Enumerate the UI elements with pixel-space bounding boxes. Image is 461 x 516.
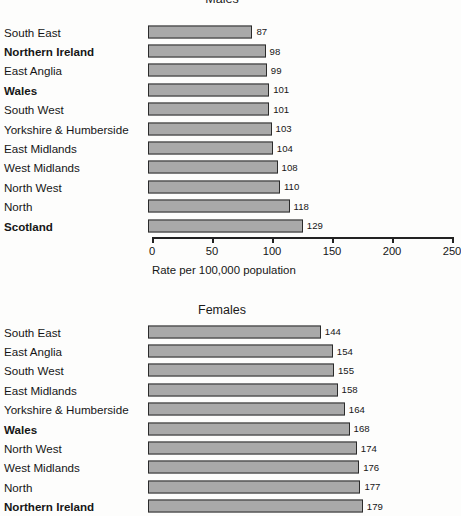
bar-track: 98 bbox=[148, 45, 453, 58]
bar-track: 155 bbox=[148, 364, 453, 377]
bar-track: 144 bbox=[148, 325, 453, 338]
bar-track: 164 bbox=[148, 403, 453, 416]
bar-row: North West174 bbox=[0, 438, 457, 457]
axis-caption: Rate per 100,000 population bbox=[152, 264, 294, 277]
bar-row-label: West Midlands bbox=[4, 461, 80, 474]
bar bbox=[148, 345, 333, 358]
bar-row: East Anglia154 bbox=[0, 341, 457, 360]
x-axis-males: 050100150200250 Rate per 100,000 populat… bbox=[0, 237, 457, 283]
bar-row: East Midlands104 bbox=[0, 138, 457, 157]
bar-track: 87 bbox=[148, 25, 453, 38]
bar-row-label: East Anglia bbox=[4, 64, 62, 77]
bar-value-label: 154 bbox=[333, 346, 353, 357]
bar-row-label: South East bbox=[4, 25, 61, 38]
bar bbox=[148, 161, 278, 174]
bar-row-label: North West bbox=[4, 180, 62, 193]
panel-title-females: Females bbox=[152, 303, 292, 317]
bar-row-label: Scotland bbox=[4, 219, 53, 232]
axis-tick-label: 100 bbox=[263, 245, 282, 258]
bar-row-label: West Midlands bbox=[4, 161, 80, 174]
bar-row-label: Yorkshire & Humberside bbox=[4, 122, 129, 135]
bar-row-label: Wales bbox=[4, 83, 37, 96]
axis-tick bbox=[332, 237, 334, 243]
bar-row: North West110 bbox=[0, 177, 457, 196]
bar-row-label: North bbox=[4, 480, 32, 493]
bar-row: South East87 bbox=[0, 22, 457, 41]
bar bbox=[148, 500, 363, 513]
bar-rows-males: South East87Northern Ireland98East Angli… bbox=[0, 22, 457, 235]
bar-row-label: Northern Ireland bbox=[4, 45, 94, 58]
bar bbox=[148, 403, 345, 416]
bar-track: 174 bbox=[148, 442, 453, 455]
axis-tick bbox=[452, 237, 454, 243]
bar bbox=[148, 383, 338, 396]
bar-row: South West155 bbox=[0, 361, 457, 380]
bar-value-label: 179 bbox=[363, 501, 383, 512]
bar bbox=[148, 45, 266, 58]
bar-row-label: North West bbox=[4, 442, 62, 455]
bar-row: Wales168 bbox=[0, 419, 457, 438]
bar-row-label: North bbox=[4, 200, 32, 213]
bar bbox=[148, 461, 359, 474]
bar bbox=[148, 142, 273, 155]
bar-value-label: 87 bbox=[252, 26, 267, 37]
bar-row: Northern Ireland179 bbox=[0, 497, 457, 516]
bar-track: 129 bbox=[148, 219, 453, 232]
bar-value-label: 129 bbox=[303, 220, 323, 231]
bar-row-label: South West bbox=[4, 364, 64, 377]
bar-row-label: South West bbox=[4, 103, 64, 116]
bar-row: North177 bbox=[0, 477, 457, 496]
bar-value-label: 144 bbox=[321, 326, 341, 337]
bar-value-label: 101 bbox=[269, 84, 289, 95]
bar bbox=[148, 25, 252, 38]
axis-tick bbox=[212, 237, 214, 243]
bar-value-label: 104 bbox=[273, 143, 293, 154]
axis-tick-label: 50 bbox=[206, 245, 218, 258]
axis-tick-label: 150 bbox=[323, 245, 342, 258]
bar-row-label: East Anglia bbox=[4, 345, 62, 358]
bar-track: 103 bbox=[148, 122, 453, 135]
axis-line bbox=[152, 237, 452, 239]
bar bbox=[148, 122, 272, 135]
axis-tick bbox=[392, 237, 394, 243]
bar-value-label: 98 bbox=[266, 46, 281, 57]
axis-tick bbox=[152, 237, 154, 243]
bar-row: West Midlands176 bbox=[0, 458, 457, 477]
bar bbox=[148, 64, 267, 77]
bar-row: Yorkshire & Humberside103 bbox=[0, 119, 457, 138]
bar-value-label: 118 bbox=[290, 201, 309, 212]
bar-track: 110 bbox=[148, 180, 453, 193]
bar-track: 104 bbox=[148, 142, 453, 155]
bar-track: 179 bbox=[148, 500, 453, 513]
bar bbox=[148, 442, 357, 455]
bar-row-label: East Midlands bbox=[4, 383, 77, 396]
axis-tick bbox=[272, 237, 274, 243]
bar-rows-females: South East144East Anglia154South West155… bbox=[0, 322, 457, 516]
bar bbox=[148, 180, 280, 193]
panel-title-males: Males bbox=[152, 0, 292, 6]
bar bbox=[148, 325, 321, 338]
bar bbox=[148, 219, 303, 232]
bar-track: 101 bbox=[148, 103, 453, 116]
axis-tick-label: 0 bbox=[149, 245, 155, 258]
bar-track: 118 bbox=[148, 200, 453, 213]
bar-row: Yorkshire & Humberside164 bbox=[0, 400, 457, 419]
bar-track: 168 bbox=[148, 422, 453, 435]
bar-row-label: South East bbox=[4, 325, 61, 338]
bar-row: Wales101 bbox=[0, 80, 457, 99]
bar-track: 154 bbox=[148, 345, 453, 358]
bar bbox=[148, 480, 360, 493]
bar-track: 177 bbox=[148, 480, 453, 493]
bar-row: South West101 bbox=[0, 100, 457, 119]
bar-track: 101 bbox=[148, 83, 453, 96]
bar-row: West Midlands108 bbox=[0, 158, 457, 177]
bar-value-label: 174 bbox=[357, 443, 377, 454]
bar-value-label: 176 bbox=[359, 462, 379, 473]
axis-tick-label: 200 bbox=[383, 245, 402, 258]
bar-row: East Anglia99 bbox=[0, 61, 457, 80]
bar-row: Northern Ireland98 bbox=[0, 41, 457, 60]
bar bbox=[148, 83, 269, 96]
bar bbox=[148, 364, 334, 377]
bar bbox=[148, 200, 290, 213]
